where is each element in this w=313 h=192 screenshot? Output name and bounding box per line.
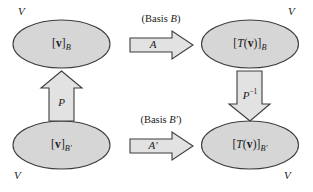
caption-open-paren: (Basis: [142, 13, 171, 24]
basis-subscript: B′: [261, 144, 268, 153]
space-corner-label-top-left: V: [18, 6, 25, 17]
space-corner-label-top-right: V: [288, 6, 295, 17]
space-content-bottom-right: [T(v)]B′: [232, 139, 267, 151]
arrow-label-left-P: P: [58, 97, 65, 108]
caption-close-paren: ): [178, 114, 182, 125]
basis-caption-top: (Basis B): [142, 14, 181, 25]
basis-subscript: B′: [65, 144, 72, 153]
space-content-top-right: [T(v)]B: [233, 38, 266, 50]
arrow-label-right-P-inverse: P−1: [243, 88, 258, 101]
inverse-exponent: −1: [249, 87, 257, 96]
space-content-bottom-left: [v]B′: [51, 139, 72, 151]
arrow-label-bottom-A-prime: A′: [148, 140, 157, 151]
arrow-label-top-A: A: [150, 39, 157, 50]
space-corner-label-bottom-left: V: [14, 170, 21, 181]
arrow-shape-bottom-A-prime: [130, 132, 193, 160]
basis-subscript: B: [261, 43, 266, 52]
space-corner-label-bottom-right: V: [284, 170, 291, 181]
caption-open-paren: (Basis: [140, 114, 169, 125]
caption-basis-symbol: B′: [169, 114, 178, 125]
space-content-top-left: [v]B: [52, 38, 71, 50]
change-of-basis-diagram: V V V V [v]B [T(v)]B [v]B′ [T(v)]B′ (Bas…: [0, 0, 313, 192]
basis-caption-bottom: (Basis B′): [140, 115, 181, 126]
caption-close-paren: ): [177, 13, 181, 24]
p-symbol: P: [243, 89, 250, 101]
arrow-shape-top-A: [130, 31, 193, 59]
basis-subscript: B: [66, 43, 71, 52]
diagram-shapes-layer: [0, 0, 313, 192]
